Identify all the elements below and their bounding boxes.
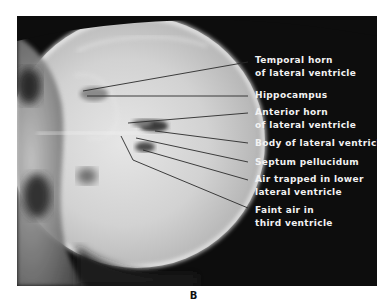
label-septum-pellucidum: Septum pellucidum <box>255 156 359 169</box>
label-anterior-horn: Anterior horn of lateral ventricle <box>255 106 356 131</box>
label-line: Body of lateral ventricle <box>255 137 377 150</box>
label-temporal-horn: Temporal horn of lateral ventricle <box>255 54 356 79</box>
label-line: Anterior horn <box>255 106 356 119</box>
label-hippocampus: Hippocampus <box>255 89 328 102</box>
label-line: Septum pellucidum <box>255 156 359 169</box>
label-line: Temporal horn <box>255 54 356 67</box>
label-air-trapped: Air trapped in lower lateral ventricle <box>255 173 364 198</box>
label-line: lateral ventricle <box>255 186 364 199</box>
radiograph-figure: Temporal horn of lateral ventricle Hippo… <box>17 16 377 286</box>
label-line: Air trapped in lower <box>255 173 364 186</box>
label-line: third ventricle <box>255 217 333 230</box>
label-faint-air-third-ventricle: Faint air in third ventricle <box>255 204 333 229</box>
label-line: of lateral ventricle <box>255 119 356 132</box>
label-line: Hippocampus <box>255 89 328 102</box>
label-body-lateral-ventricle: Body of lateral ventricle <box>255 137 377 150</box>
label-line: of lateral ventricle <box>255 67 356 80</box>
label-line: Faint air in <box>255 204 333 217</box>
panel-label: B <box>0 290 387 301</box>
